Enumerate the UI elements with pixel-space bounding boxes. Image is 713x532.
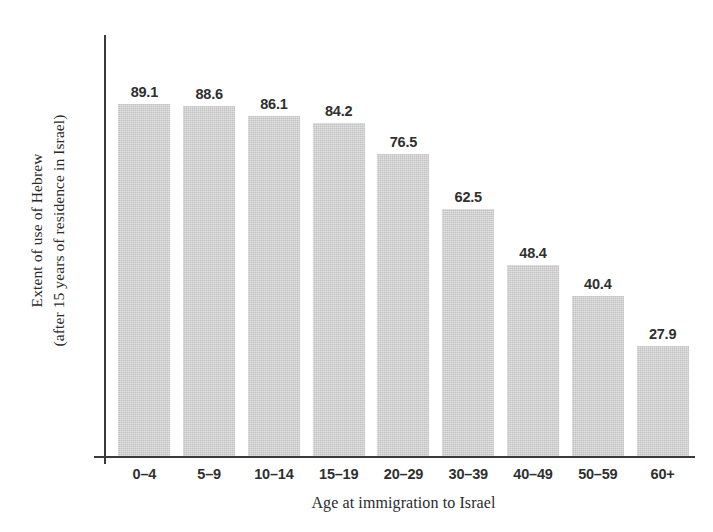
x-axis-tick-label: 20–29 (371, 466, 436, 482)
bar-value-label: 88.6 (195, 86, 222, 102)
bar-value-label: 86.1 (260, 96, 287, 112)
plot-area: 89.188.686.184.276.562.548.440.427.9 (112, 35, 695, 456)
bar-value-label: 89.1 (131, 84, 158, 100)
bar (183, 106, 235, 456)
y-axis-title: Extent of use of Hebrew (after 15 years … (26, 114, 71, 346)
bar-value-label: 48.4 (519, 245, 546, 261)
x-axis-tick-label: 0–4 (112, 466, 177, 482)
bar-group: 86.1 (242, 35, 307, 456)
x-axis-tick-label: 60+ (630, 466, 695, 482)
x-axis-line (94, 456, 695, 458)
bar-group: 76.5 (371, 35, 436, 456)
bar-value-label: 40.4 (584, 276, 611, 292)
x-axis-tick-label: 5–9 (177, 466, 242, 482)
bar (118, 104, 170, 456)
bar (313, 123, 365, 456)
bar-value-label: 76.5 (390, 134, 417, 150)
bar-group: 48.4 (501, 35, 566, 456)
bar (572, 296, 624, 456)
bar-group: 27.9 (630, 35, 695, 456)
bar (377, 154, 429, 456)
bar-group: 40.4 (565, 35, 630, 456)
x-axis-tick-labels: 0–45–910–1415–1920–2930–3940–4950–5960+ (112, 466, 695, 482)
x-axis-tick-label: 15–19 (306, 466, 371, 482)
bar (442, 209, 494, 456)
x-axis-tick-label: 10–14 (242, 466, 307, 482)
x-axis-tick-label: 30–39 (436, 466, 501, 482)
bar-series: 89.188.686.184.276.562.548.440.427.9 (112, 35, 695, 456)
x-axis-tick-label: 40–49 (501, 466, 566, 482)
bar (248, 116, 300, 456)
bar-group: 88.6 (177, 35, 242, 456)
bar (637, 346, 689, 456)
bar (507, 265, 559, 456)
y-axis-title-line-1: Extent of use of Hebrew (28, 153, 45, 307)
bar-value-label: 84.2 (325, 103, 352, 119)
bar-group: 84.2 (306, 35, 371, 456)
bar-group: 62.5 (436, 35, 501, 456)
bar-group: 89.1 (112, 35, 177, 456)
bar-chart-figure: Extent of use of Hebrew (after 15 years … (0, 0, 713, 532)
x-axis-title: Age at immigration to Israel (112, 494, 695, 512)
y-axis-title-line-2: (after 15 years of residence in Israel) (48, 114, 70, 346)
bar-value-label: 27.9 (649, 326, 676, 342)
bar-value-label: 62.5 (455, 189, 482, 205)
y-axis-title-container: Extent of use of Hebrew (after 15 years … (0, 0, 96, 460)
y-axis-line (104, 35, 106, 464)
x-axis-tick-label: 50–59 (565, 466, 630, 482)
